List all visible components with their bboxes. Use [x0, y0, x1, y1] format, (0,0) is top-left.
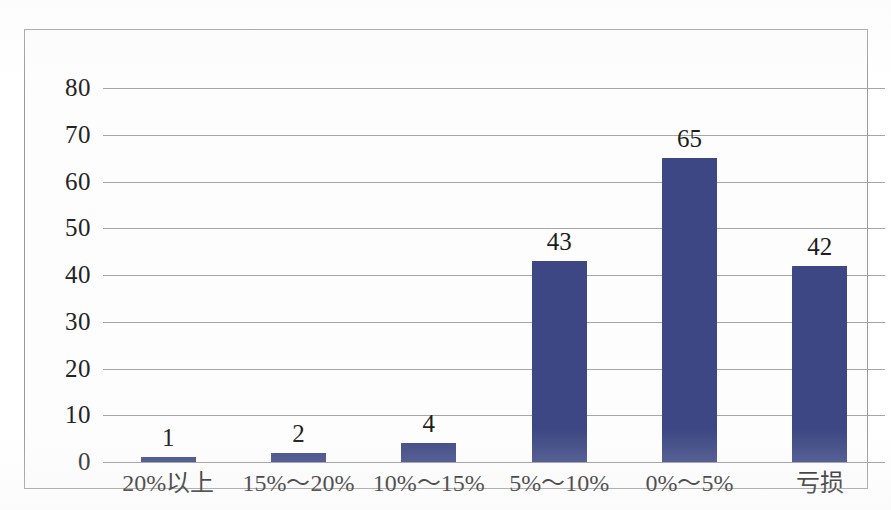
x-axis-tick-label: 5%～10% — [494, 468, 624, 498]
gridline-60 — [103, 182, 885, 183]
bar[interactable] — [532, 261, 587, 462]
x-axis-tick-label: 10%～15% — [364, 468, 494, 498]
bar-value-label: 4 — [369, 411, 489, 436]
x-axis-category-labels: 20%以上15%～20%10%～15%5%～10%0%～5%亏损 — [103, 468, 885, 504]
bar[interactable] — [271, 453, 326, 462]
bar-value-label: 43 — [499, 229, 619, 254]
bar[interactable] — [662, 158, 717, 462]
gridline-40 — [103, 275, 885, 276]
gridline-0 — [103, 462, 885, 463]
bar-value-label: 1 — [108, 425, 228, 450]
gridline-50 — [103, 228, 885, 229]
x-axis-tick-label: 15%～20% — [233, 468, 363, 498]
chart-frame: 01020304050607080 124436542 20%以上15%～20%… — [24, 29, 868, 489]
y-axis-tick-label: 20 — [47, 356, 91, 381]
x-axis-tick-label: 0%～5% — [624, 468, 754, 498]
gridline-10 — [103, 415, 885, 416]
y-axis-tick-label: 10 — [47, 402, 91, 427]
y-axis-tick-label: 40 — [47, 262, 91, 287]
x-axis-tick-label: 亏损 — [755, 468, 885, 498]
y-axis-tick-label: 30 — [47, 309, 91, 334]
y-axis-tick-label: 60 — [47, 169, 91, 194]
gridline-20 — [103, 369, 885, 370]
bar[interactable] — [792, 266, 847, 462]
plot-area: 124436542 — [103, 88, 885, 462]
gridline-70 — [103, 135, 885, 136]
y-axis-tick-label: 70 — [47, 122, 91, 147]
y-axis-tick-label: 0 — [47, 449, 91, 474]
x-axis-tick-label: 20%以上 — [103, 468, 233, 498]
chart-page: 01020304050607080 124436542 20%以上15%～20%… — [0, 0, 891, 510]
bar[interactable] — [141, 457, 196, 462]
gridline-80 — [103, 88, 885, 89]
y-axis-tick-label: 50 — [47, 215, 91, 240]
gridline-30 — [103, 322, 885, 323]
bar-value-label: 2 — [239, 421, 359, 446]
bar-value-label: 65 — [630, 126, 750, 151]
y-axis-tick-label: 80 — [47, 75, 91, 100]
bar-value-label: 42 — [760, 234, 880, 259]
bar[interactable] — [401, 443, 456, 462]
